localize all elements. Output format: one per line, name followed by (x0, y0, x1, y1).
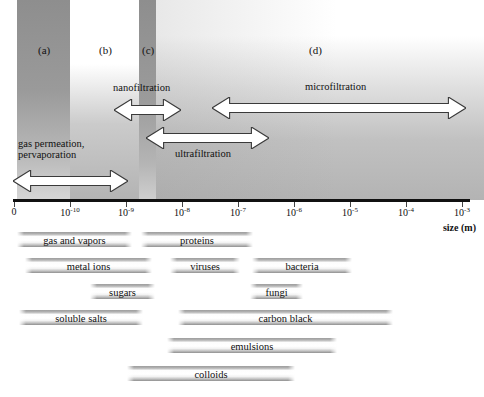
zone-label-d: (d) (309, 44, 322, 56)
material-bar-label: bacteria (285, 260, 318, 271)
bar-end-fade-left (127, 366, 134, 381)
bar-end-fade-left (141, 232, 148, 247)
arrow-label-gas: gas permeation,pervaporation (18, 138, 84, 160)
bar-end-fade-right (136, 310, 143, 325)
bar-end-fade-left (178, 310, 185, 325)
arrow-ultrafiltration (146, 127, 269, 149)
bar-end-fade-left (90, 284, 97, 299)
size-axis-line (13, 199, 470, 202)
axis-tick-label: 10-5 (342, 206, 358, 218)
axis-tick-label: 0 (12, 206, 17, 217)
bar-end-fade-left (250, 284, 257, 299)
bar-end-fade-right (246, 232, 253, 247)
material-bar: gas and vapors (17, 232, 132, 247)
material-bar: carbon black (178, 310, 393, 325)
bar-end-fade-right (145, 258, 152, 273)
material-bar: colloids (127, 366, 295, 381)
material-bar-label: fungi (265, 286, 287, 297)
material-bar-label: emulsions (231, 340, 274, 351)
bar-end-fade-left (19, 310, 26, 325)
zone-label-a: (a) (38, 44, 50, 56)
material-bar-label: viruses (190, 260, 220, 271)
bar-end-fade-right (288, 366, 295, 381)
axis-tick-label: 10-8 (174, 206, 190, 218)
bar-end-fade-left (25, 258, 32, 273)
zone-label-c: (c) (142, 44, 154, 56)
axis-tick-label: 10-6 (286, 206, 302, 218)
bar-end-fade-left (167, 338, 174, 353)
arrow-label-ultrafiltration: ultrafiltration (175, 148, 231, 159)
axis-title-size: size (m) (443, 222, 476, 233)
bar-end-fade-right (148, 284, 155, 299)
bar-end-fade-right (386, 310, 393, 325)
material-bar: proteins (141, 232, 253, 247)
material-bar-label: soluble salts (55, 312, 107, 323)
material-bar: emulsions (167, 338, 337, 353)
arrow-nanofiltration (114, 99, 181, 121)
material-bar: soluble salts (19, 310, 143, 325)
bar-end-fade-left (252, 258, 259, 273)
material-bar: metal ions (25, 258, 152, 273)
axis-tick-label: 10-7 (230, 206, 246, 218)
material-bar: bacteria (252, 258, 352, 273)
membrane-filtration-diagram: (a)(b)(c)(d) gas permeation,pervaporatio… (0, 0, 484, 397)
arrow-microfiltration (212, 97, 466, 119)
material-bar-label: proteins (180, 234, 214, 245)
zone-label-b: (b) (99, 44, 112, 56)
bar-end-fade-right (296, 284, 303, 299)
axis-tick-label: 10-10 (60, 206, 79, 218)
bar-end-fade-right (125, 232, 132, 247)
material-bar: fungi (250, 284, 303, 299)
material-bar: viruses (170, 258, 240, 273)
bar-end-fade-right (233, 258, 240, 273)
arrow-label-microfiltration: microfiltration (305, 81, 366, 92)
arrow-label-nanofiltration: nanofiltration (113, 82, 170, 93)
axis-tick-label: 10-3 (454, 206, 470, 218)
bar-end-fade-left (17, 232, 24, 247)
material-bar-label: metal ions (67, 260, 110, 271)
bar-end-fade-right (345, 258, 352, 273)
material-bar-label: colloids (194, 368, 227, 379)
arrow-gas (13, 170, 128, 192)
material-bar: sugars (90, 284, 155, 299)
bar-end-fade-left (170, 258, 177, 273)
axis-tick-label: 10-4 (398, 206, 414, 218)
bar-end-fade-right (330, 338, 337, 353)
material-bar-label: sugars (109, 286, 136, 297)
material-bar-label: gas and vapors (43, 234, 105, 245)
material-bar-label: carbon black (259, 312, 313, 323)
axis-tick-label: 10-9 (118, 206, 134, 218)
